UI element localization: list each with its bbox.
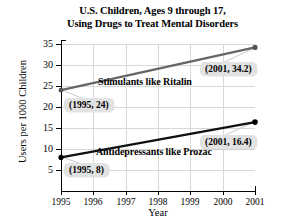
y-tick-label-20: 20: [33, 102, 53, 112]
y-tick-label-10: 10: [33, 144, 53, 154]
x-tick-1998: [158, 191, 159, 195]
chart-title-line-2: Using Drugs to Treat Mental Disorders: [0, 18, 305, 31]
annotation-2001-34-2: (2001, 34.2): [200, 62, 257, 76]
y-axis-title: Users per 1000 Children: [17, 47, 28, 177]
chart-title: U.S. Children, Ages 9 through 17, Using …: [0, 5, 305, 30]
x-tick-2001: [255, 191, 256, 195]
y-tick-label-35: 35: [33, 39, 53, 49]
gridline-v-1997: [126, 44, 127, 191]
x-axis-title: Year: [61, 207, 255, 218]
y-tick-5: [56, 170, 61, 171]
y-axis-top-cap: [61, 40, 66, 41]
series-label-stimulants: Stimulants like Ritalin: [98, 76, 192, 87]
annotation-1995-24: (1995, 24): [64, 98, 114, 112]
x-tick-1995: [61, 191, 62, 195]
annotation-1995-8: (1995, 8): [64, 163, 109, 177]
chart-container: U.S. Children, Ages 9 through 17, Using …: [0, 0, 305, 220]
x-tick-1996: [93, 191, 94, 195]
y-tick-15: [56, 128, 61, 129]
y-tick-label-15: 15: [33, 123, 53, 133]
y-tick-35: [56, 44, 61, 45]
x-tick-2000: [223, 191, 224, 195]
y-tick-25: [56, 86, 61, 87]
gridline-v-1999: [190, 44, 191, 191]
series-label-antidepressants: Antidepressants like Prozac: [96, 146, 212, 157]
chart-title-line-1: U.S. Children, Ages 9 through 17,: [0, 5, 305, 18]
y-axis-line: [61, 40, 62, 191]
y-tick-label-25: 25: [33, 81, 53, 91]
y-tick-label-30: 30: [33, 60, 53, 70]
x-tick-label-2001: 2001: [235, 197, 275, 207]
y-tick-label-5: 5: [33, 165, 53, 175]
x-tick-1999: [190, 191, 191, 195]
gridline-v-1998: [158, 44, 159, 191]
x-tick-1997: [126, 191, 127, 195]
y-tick-20: [56, 107, 61, 108]
y-tick-10: [56, 149, 61, 150]
y-tick-30: [56, 65, 61, 66]
annotation-2001-16-4: (2001, 16.4): [200, 135, 257, 149]
